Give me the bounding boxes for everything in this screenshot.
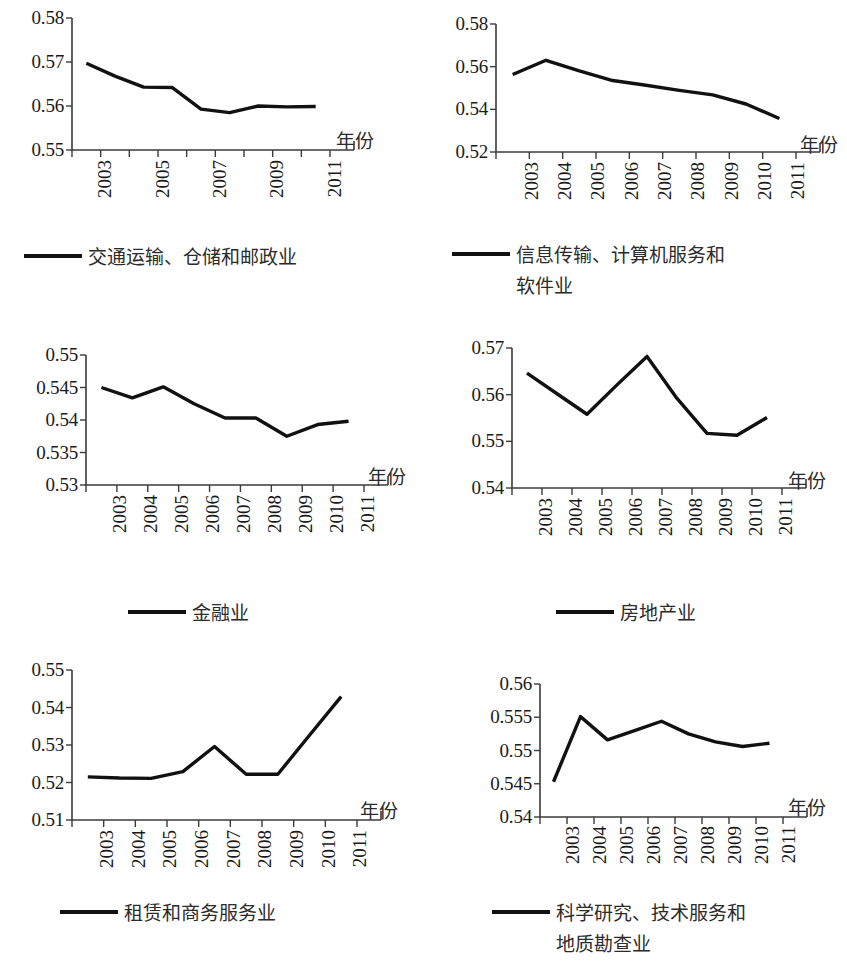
- x-tick-label: 2008: [264, 495, 286, 533]
- y-tick-label: 0.55: [472, 430, 504, 452]
- y-tick-label: 0.54: [472, 477, 504, 499]
- legend-6: 科学研究、技术服务和 地质勘查业: [492, 898, 746, 960]
- x-axis-name-3: 年份: [368, 462, 406, 489]
- plot-area-4: [512, 348, 812, 504]
- x-tick-label: 2009: [266, 160, 288, 198]
- x-tick-label: 2003: [109, 495, 131, 533]
- x-axis-name-2: 年份: [800, 130, 838, 157]
- y-tick-label: 0.52: [32, 772, 64, 794]
- x-tick-label: 2011: [775, 498, 797, 535]
- x-tick-label: 2009: [724, 826, 746, 864]
- y-tick-label: 0.535: [36, 442, 78, 464]
- x-tick-label: 2003: [562, 826, 584, 864]
- legend-line-swatch: [492, 910, 550, 914]
- x-tick-label: 2005: [152, 160, 174, 198]
- x-tick-label: 2004: [140, 495, 162, 533]
- plot-area-6: [540, 684, 813, 833]
- y-tick-label: 0.58: [32, 7, 64, 29]
- data-series-line: [88, 697, 341, 779]
- y-tick-label: 0.54: [32, 697, 64, 719]
- x-tick-label: 2007: [209, 160, 231, 198]
- x-tick-label: 2004: [565, 498, 587, 536]
- axis-lines: [86, 355, 388, 485]
- y-tick-label: 0.55: [500, 740, 532, 762]
- data-series-line: [101, 387, 348, 436]
- y-tick-label: 0.555: [490, 706, 532, 728]
- plot-area-2: [496, 24, 826, 168]
- x-tick-label: 2009: [286, 830, 308, 868]
- x-tick-label: 2011: [349, 830, 371, 867]
- x-tick-label: 2007: [655, 498, 677, 536]
- plot-area-3: [86, 355, 394, 501]
- y-axis-labels-2: 0.520.540.560.58: [424, 24, 488, 152]
- x-tick-label: 2011: [778, 826, 800, 863]
- y-tick-label: 0.56: [456, 56, 488, 78]
- legend-line-swatch: [128, 610, 186, 614]
- y-tick-label: 0.56: [32, 95, 64, 117]
- legend-label: 租赁和商务服务业: [124, 898, 276, 929]
- x-tick-label: 2003: [521, 162, 543, 200]
- y-axis-labels-4: 0.540.550.560.57: [440, 348, 504, 488]
- legend-1: 交通运输、仓储和邮政业: [24, 242, 297, 273]
- x-tick-label: 2004: [128, 830, 150, 868]
- y-tick-label: 0.58: [456, 13, 488, 35]
- axis-lines: [512, 348, 806, 488]
- y-axis-labels-3: 0.530.5350.540.5450.55: [0, 355, 78, 485]
- y-tick-label: 0.55: [32, 659, 64, 681]
- y-tick-label: 0.51: [32, 809, 64, 831]
- y-tick-label: 0.54: [456, 98, 488, 120]
- legend-5: 租赁和商务服务业: [60, 898, 276, 929]
- x-axis-name-6: 年份: [788, 793, 826, 820]
- y-tick-label: 0.53: [46, 474, 78, 496]
- x-tick-label: 2006: [191, 830, 213, 868]
- x-tick-label: 2004: [589, 826, 611, 864]
- legend-2: 信息传输、计算机服务和 软件业: [452, 240, 725, 302]
- y-axis-labels-1: 0.550.560.570.58: [0, 18, 64, 150]
- x-axis-name-4: 年份: [788, 466, 826, 493]
- y-tick-label: 0.53: [32, 734, 64, 756]
- legend-label: 房地产业: [620, 598, 696, 629]
- axis-lines: [540, 684, 807, 817]
- y-axis-labels-5: 0.510.520.530.540.55: [0, 670, 64, 820]
- legend-line-swatch: [24, 254, 82, 258]
- legend-line-swatch: [452, 252, 510, 256]
- plot-area-1: [72, 18, 360, 166]
- x-tick-label: 2009: [715, 498, 737, 536]
- y-tick-label: 0.54: [500, 806, 532, 828]
- x-tick-label: 2007: [654, 162, 676, 200]
- x-tick-label: 2006: [621, 162, 643, 200]
- x-tick-label: 2007: [233, 495, 255, 533]
- x-tick-label: 2010: [326, 495, 348, 533]
- x-tick-label: 2008: [685, 498, 707, 536]
- y-tick-label: 0.56: [500, 673, 532, 695]
- x-tick-label: 2011: [787, 162, 809, 199]
- y-tick-label: 0.54: [46, 409, 78, 431]
- x-tick-label: 2006: [643, 826, 665, 864]
- x-tick-label: 2005: [595, 498, 617, 536]
- data-series-line: [554, 717, 770, 782]
- x-axis-name-5: 年份: [360, 796, 398, 823]
- x-tick-label: 2009: [721, 162, 743, 200]
- y-tick-label: 0.56: [472, 384, 504, 406]
- data-series-line: [86, 63, 315, 112]
- axis-lines: [72, 670, 381, 820]
- x-tick-label: 2004: [554, 162, 576, 200]
- y-tick-label: 0.545: [36, 377, 78, 399]
- y-tick-label: 0.55: [32, 139, 64, 161]
- x-tick-label: 2006: [202, 495, 224, 533]
- legend-line-swatch: [60, 910, 118, 914]
- legend-line-swatch: [556, 610, 614, 614]
- x-tick-label: 2005: [159, 830, 181, 868]
- x-tick-label: 2011: [324, 160, 346, 197]
- y-tick-label: 0.52: [456, 141, 488, 163]
- x-tick-label: 2008: [687, 162, 709, 200]
- x-tick-label: 2010: [754, 162, 776, 200]
- x-tick-label: 2003: [94, 160, 116, 198]
- x-tick-label: 2008: [254, 830, 276, 868]
- data-series-line: [527, 356, 767, 435]
- x-tick-label: 2005: [616, 826, 638, 864]
- x-tick-label: 2010: [751, 826, 773, 864]
- x-tick-label: 2005: [587, 162, 609, 200]
- legend-label: 科学研究、技术服务和 地质勘查业: [556, 898, 746, 960]
- x-tick-label: 2005: [171, 495, 193, 533]
